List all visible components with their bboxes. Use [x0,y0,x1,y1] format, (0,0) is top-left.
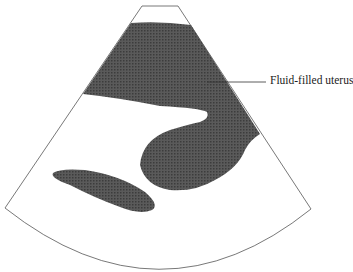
fluid-filled-uterus-label: Fluid-filled uterus [270,74,353,86]
